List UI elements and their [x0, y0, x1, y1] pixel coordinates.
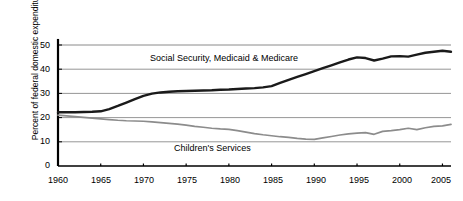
x-tick-label-1985: 1985 — [256, 175, 290, 185]
y-tick-label-50: 50 — [30, 40, 50, 50]
chart-figure: Percent of federal domestic expenditures… — [0, 0, 463, 201]
chart-plot-area — [0, 0, 463, 201]
series-annotation-social-security: Social Security, Medicaid & Medicare — [150, 53, 298, 63]
y-tick-label-20: 20 — [30, 112, 50, 122]
x-tick-label-1995: 1995 — [342, 175, 376, 185]
series-annotation-childrens-services: Children's Services — [174, 143, 251, 153]
x-tick-label-1960: 1960 — [41, 175, 75, 185]
x-tick-label-1980: 1980 — [213, 175, 247, 185]
series-line-childrens-services — [58, 115, 451, 139]
data-series-lines — [58, 51, 451, 140]
x-tick-label-1990: 1990 — [299, 175, 333, 185]
x-tick-label-1965: 1965 — [84, 175, 118, 185]
x-tick-label-2000: 2000 — [385, 175, 419, 185]
x-tick-label-1970: 1970 — [127, 175, 161, 185]
x-tick-label-1975: 1975 — [170, 175, 204, 185]
y-tick-label-30: 30 — [30, 88, 50, 98]
x-tick-label-2005: 2005 — [424, 175, 458, 185]
y-tick-label-0: 0 — [30, 160, 50, 170]
y-axis-title: Percent of federal domestic expenditures — [30, 0, 40, 158]
y-tick-label-10: 10 — [30, 136, 50, 146]
y-tick-label-40: 40 — [30, 64, 50, 74]
